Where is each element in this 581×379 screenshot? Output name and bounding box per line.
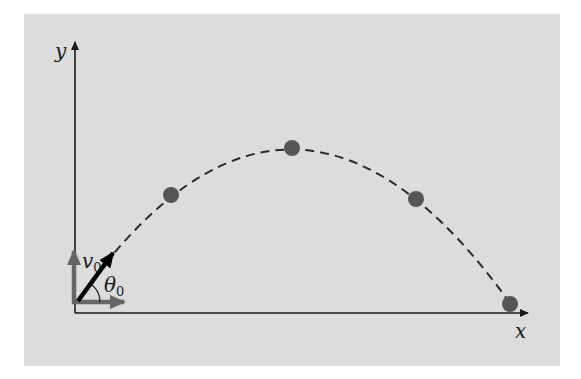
axes (75, 42, 528, 313)
velocity-label-symbol: v (82, 249, 94, 273)
velocity-label: v0 (82, 249, 102, 275)
trajectory-point (284, 140, 300, 156)
projectile-diagram: y x v0 θ0 (0, 0, 581, 379)
angle-label-symbol: θ (104, 273, 116, 297)
velocity-label-subscript: 0 (93, 260, 101, 275)
angle-label: θ0 (104, 273, 124, 299)
launch-angle-arc (92, 285, 100, 302)
y-axis-label: y (54, 39, 67, 63)
x-axis-label: x (515, 319, 526, 343)
angle-label-subscript: 0 (116, 284, 124, 299)
trajectory-dashed-curve (78, 149, 512, 306)
trajectory-point (502, 296, 518, 312)
trajectory-point (163, 187, 179, 203)
trajectory-point (408, 191, 424, 207)
trajectory-points (163, 140, 518, 312)
